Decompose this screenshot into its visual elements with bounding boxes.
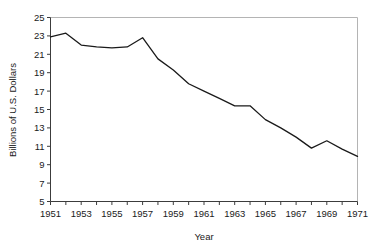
x-tick-label: 1965 bbox=[255, 208, 276, 219]
chart-canvas: 5791113151719212325 19511953195519571959… bbox=[0, 0, 381, 249]
line-chart: 5791113151719212325 19511953195519571959… bbox=[0, 0, 381, 249]
x-tick-label: 1953 bbox=[71, 208, 92, 219]
y-tick-label: 13 bbox=[34, 122, 45, 133]
y-tick-labels: 5791113151719212325 bbox=[34, 12, 45, 207]
y-tick-label: 15 bbox=[34, 104, 45, 115]
y-tick-label: 7 bbox=[39, 178, 44, 189]
x-tick-label: 1959 bbox=[163, 208, 184, 219]
x-tick-label: 1955 bbox=[101, 208, 122, 219]
x-axis: 1951195319551957195919611963196519671969… bbox=[40, 202, 368, 219]
y-tick-label: 5 bbox=[39, 196, 44, 207]
x-tick-label: 1971 bbox=[347, 208, 368, 219]
y-tick-label: 17 bbox=[34, 86, 45, 97]
x-tick-label: 1951 bbox=[40, 208, 61, 219]
x-tick-label: 1967 bbox=[286, 208, 307, 219]
y-tick-marks bbox=[47, 18, 51, 202]
x-tick-label: 1963 bbox=[224, 208, 245, 219]
x-tick-marks bbox=[51, 202, 358, 206]
x-tick-label: 1957 bbox=[132, 208, 153, 219]
data-series-line bbox=[51, 33, 358, 156]
y-tick-label: 21 bbox=[34, 49, 45, 60]
y-tick-label: 19 bbox=[34, 67, 45, 78]
y-tick-label: 9 bbox=[39, 159, 44, 170]
y-axis: 5791113151719212325 bbox=[34, 12, 51, 207]
y-tick-label: 25 bbox=[34, 12, 45, 23]
y-tick-label: 11 bbox=[35, 141, 45, 152]
x-tick-label: 1969 bbox=[316, 208, 337, 219]
y-axis-title: Billions of U.S. Dollars bbox=[7, 63, 18, 157]
x-tick-label: 1961 bbox=[193, 208, 214, 219]
y-tick-label: 23 bbox=[34, 30, 45, 41]
x-tick-labels: 1951195319551957195919611963196519671969… bbox=[40, 208, 368, 219]
x-axis-title: Year bbox=[194, 231, 213, 242]
plot-frame bbox=[51, 18, 358, 202]
